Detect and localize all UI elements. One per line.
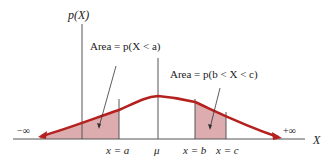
neg-inf-label: −∞ xyxy=(17,125,30,136)
left-arrowhead-icon xyxy=(38,131,47,139)
annotation-middle-area: Area = p(b < X < c) xyxy=(170,68,258,81)
x-axis-label: X xyxy=(312,133,321,147)
tick-label-b: x = b xyxy=(182,144,207,156)
tick-label-a: x = a xyxy=(105,144,130,156)
pos-inf-label: +∞ xyxy=(283,125,296,136)
y-axis-label: p(X) xyxy=(67,8,89,22)
tick-label-c: x = c xyxy=(215,144,239,156)
annotation-left-area: Area = p(X < a) xyxy=(90,40,161,53)
shaded-area-middle xyxy=(195,102,226,139)
tick-label-mu: μ xyxy=(153,144,160,156)
normal-distribution-diagram: p(X) Area = p(X < a) Area = p(b < X < c)… xyxy=(0,0,333,165)
